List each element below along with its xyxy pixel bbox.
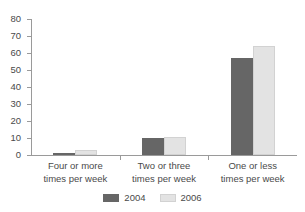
legend-swatch-icon	[103, 194, 119, 202]
x-axis-category-label: Four or moretimes per week	[31, 160, 120, 190]
bar-2004-1	[142, 138, 164, 155]
y-axis-tick-label: 0	[16, 150, 21, 160]
y-axis-tick-label: 20	[10, 116, 21, 126]
x-axis-category-label: One or lesstimes per week	[208, 160, 297, 190]
bar-2006-2	[253, 46, 275, 155]
legend-label: 2004	[124, 193, 145, 203]
legend-swatch-icon	[160, 194, 176, 202]
bar-2004-0	[53, 153, 75, 155]
category-label-line: Four or more	[48, 160, 103, 171]
chart-legend: 20042006	[0, 193, 305, 203]
legend-item-2004[interactable]: 2004	[103, 193, 145, 203]
category-label-line: times per week	[208, 173, 297, 186]
y-axis-tick-label: 80	[10, 14, 21, 24]
category-label-line: times per week	[31, 173, 120, 186]
legend-item-2006[interactable]: 2006	[160, 193, 202, 203]
category-label-line: Two or three	[138, 160, 191, 171]
y-axis-tick-label: 70	[10, 31, 21, 41]
category-label-line: times per week	[120, 173, 209, 186]
y-axis-tick-label: 60	[10, 48, 21, 58]
x-axis-category-label: Two or threetimes per week	[120, 160, 209, 190]
legend-label: 2006	[181, 193, 202, 203]
bar-2006-1	[164, 137, 186, 155]
y-axis-tick-label: 40	[10, 82, 21, 92]
bar-2006-0	[75, 150, 97, 155]
bars-layer	[31, 19, 297, 156]
bar-2004-2	[231, 58, 253, 155]
y-axis-tick-label: 10	[10, 133, 21, 143]
x-axis-category-labels: Four or moretimes per weekTwo or threeti…	[31, 160, 297, 190]
y-axis-tick-label: 50	[10, 65, 21, 75]
y-axis-tick-label: 30	[10, 99, 21, 109]
bar-chart: 01020304050607080 Four or moretimes per …	[0, 0, 305, 212]
category-label-line: One or less	[228, 160, 277, 171]
plot-area: 01020304050607080	[31, 19, 297, 156]
